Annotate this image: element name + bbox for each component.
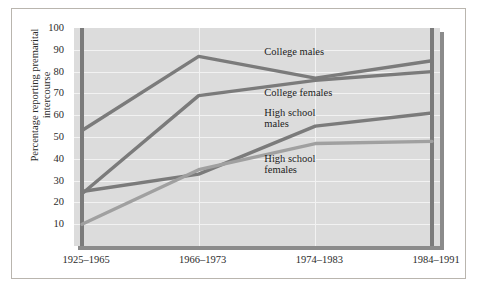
series-label-1: College females <box>264 87 332 98</box>
series-label-0: College males <box>264 46 324 57</box>
x-axis-tick-labels: 1925–19651966–19731974–19831984–1991 <box>74 254 446 270</box>
x-axis-tick-3: 1984–1991 <box>412 254 459 265</box>
y-axis-tick-10: 10 <box>54 219 65 229</box>
y-axis-tick-40: 40 <box>54 154 65 164</box>
axis-rail-left <box>80 28 84 246</box>
series-line-1 <box>82 72 432 194</box>
y-axis-tick-50: 50 <box>54 132 65 142</box>
figure-frame: Percentage reporting premarital intercou… <box>11 8 466 279</box>
y-axis-tick-30: 30 <box>54 176 65 186</box>
y-axis-tick-70: 70 <box>54 88 65 98</box>
plot-wrapper: College malesCollege femalesHigh school … <box>74 28 440 246</box>
x-axis-tick-1: 1966–1973 <box>179 254 226 265</box>
x-axis-tick-2: 1974–1983 <box>296 254 343 265</box>
series-line-2 <box>82 113 432 191</box>
y-axis-tick-60: 60 <box>54 110 65 120</box>
x-axis-tick-0: 1925–1965 <box>62 254 109 265</box>
y-axis-tick-labels: 100908070605040302010 <box>12 28 70 246</box>
y-axis-tick-20: 20 <box>54 197 65 207</box>
series-label-3: High school females <box>264 153 315 175</box>
y-axis-tick-80: 80 <box>54 67 65 77</box>
y-axis-tick-100: 100 <box>48 23 64 33</box>
series-lines <box>74 28 440 246</box>
series-label-2: High school males <box>264 107 315 129</box>
y-axis-tick-90: 90 <box>54 45 65 55</box>
plot-area: College malesCollege femalesHigh school … <box>74 28 440 246</box>
